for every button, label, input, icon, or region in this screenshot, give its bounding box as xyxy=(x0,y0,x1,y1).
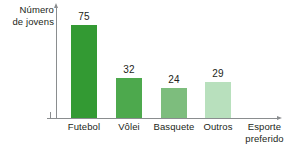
bar-value-label: 75 xyxy=(61,11,107,22)
x-axis-title: Esporte preferido xyxy=(236,121,293,144)
bar-futebol xyxy=(71,25,97,118)
x-axis-title-line1: Esporte xyxy=(236,121,293,133)
bar-chart: Número de jovens 75Futebol32Vôlei24Basqu… xyxy=(0,0,293,150)
bar-outros xyxy=(205,82,231,118)
category-label-futebol: Futebol xyxy=(61,121,107,132)
bar-value-label: 24 xyxy=(151,74,197,85)
bar-vôlei xyxy=(116,78,142,118)
bar-value-label: 29 xyxy=(195,68,241,79)
x-axis-title-line2: preferido xyxy=(236,133,293,145)
category-label-basquete: Basquete xyxy=(151,121,197,132)
bar-value-label: 32 xyxy=(106,64,152,75)
category-label-vôlei: Vôlei xyxy=(106,121,152,132)
category-label-outros: Outros xyxy=(195,121,241,132)
bar-basquete xyxy=(161,88,187,118)
